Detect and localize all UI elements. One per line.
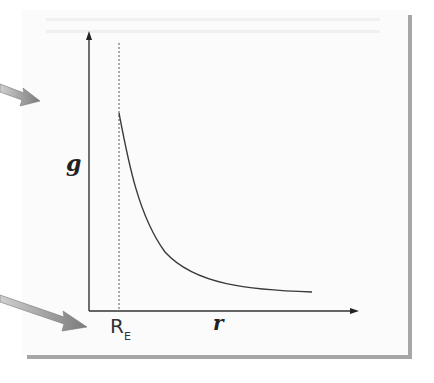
x-axis-label: r <box>213 311 224 335</box>
earth-radius-symbol: R <box>110 314 124 338</box>
y-axis <box>86 31 92 311</box>
y-axis-arrowhead-icon <box>86 31 92 40</box>
pointer-arrow-top-icon <box>0 84 40 106</box>
x-axis-arrowhead-icon <box>350 308 359 314</box>
earth-radius-label: RE <box>110 314 131 341</box>
inverse-square-curve <box>119 113 312 292</box>
pointer-arrow-bottom-icon <box>0 295 87 331</box>
earth-radius-subscript: E <box>124 330 131 343</box>
y-axis-label: g <box>66 150 81 176</box>
